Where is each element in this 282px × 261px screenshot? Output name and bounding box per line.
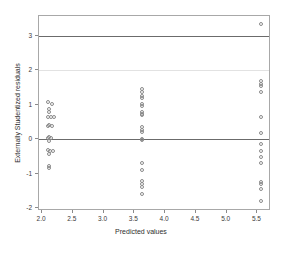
x-tick-label: 2.0 bbox=[37, 215, 46, 222]
x-tick-label: 5.0 bbox=[221, 215, 230, 222]
y-tick-1 bbox=[35, 104, 38, 105]
data-point bbox=[140, 161, 144, 165]
x-tick-4.5 bbox=[195, 210, 196, 213]
y-tick--2 bbox=[35, 207, 38, 208]
y-tick-label: -2 bbox=[12, 204, 32, 211]
data-point bbox=[52, 115, 56, 119]
x-tick-2.0 bbox=[41, 210, 42, 213]
data-point bbox=[259, 22, 263, 26]
data-point bbox=[259, 155, 263, 159]
data-point bbox=[140, 104, 144, 108]
y-tick-0 bbox=[35, 138, 38, 139]
x-tick-label: 4.5 bbox=[190, 215, 199, 222]
data-point bbox=[140, 192, 144, 196]
data-point bbox=[259, 161, 263, 165]
y-tick-label: 2 bbox=[12, 66, 32, 73]
plot-area bbox=[38, 15, 270, 210]
y-tick-label: 3 bbox=[12, 31, 32, 38]
x-tick-5.5 bbox=[256, 210, 257, 213]
reference-line-y-3 bbox=[39, 36, 269, 37]
scatter-plot-figure: Predicted values Externally Studentized … bbox=[0, 0, 282, 261]
x-tick-label: 5.5 bbox=[252, 215, 261, 222]
data-point bbox=[140, 113, 144, 117]
data-point bbox=[50, 124, 54, 128]
data-point bbox=[47, 166, 51, 170]
x-tick-label: 4.0 bbox=[160, 215, 169, 222]
x-axis-label: Predicted values bbox=[0, 228, 282, 235]
x-tick-2.5 bbox=[72, 210, 73, 213]
y-tick-label: 1 bbox=[12, 100, 32, 107]
x-tick-label: 2.5 bbox=[67, 215, 76, 222]
x-tick-5.0 bbox=[226, 210, 227, 213]
x-tick-label: 3.5 bbox=[129, 215, 138, 222]
x-tick-label: 3.0 bbox=[98, 215, 107, 222]
x-tick-3.5 bbox=[133, 210, 134, 213]
reference-line-y-2 bbox=[39, 70, 269, 71]
data-point bbox=[47, 152, 51, 156]
y-tick--1 bbox=[35, 173, 38, 174]
data-point bbox=[259, 90, 263, 94]
y-axis-label: Externally Studentized residuals bbox=[14, 63, 21, 163]
data-point bbox=[140, 138, 144, 142]
data-point bbox=[259, 149, 263, 153]
data-point bbox=[259, 142, 263, 146]
data-point bbox=[140, 168, 144, 172]
data-point bbox=[47, 139, 51, 143]
y-tick-label: 0 bbox=[12, 135, 32, 142]
x-tick-4.0 bbox=[164, 210, 165, 213]
data-point bbox=[259, 187, 263, 191]
data-point bbox=[50, 102, 54, 106]
data-point bbox=[259, 131, 263, 135]
reference-line-y-0 bbox=[39, 139, 269, 140]
data-point bbox=[259, 182, 263, 186]
y-tick-2 bbox=[35, 69, 38, 70]
data-point bbox=[259, 115, 263, 119]
x-tick-3.0 bbox=[103, 210, 104, 213]
data-point bbox=[140, 185, 144, 189]
data-point bbox=[140, 130, 144, 134]
y-tick-label: -1 bbox=[12, 169, 32, 176]
data-point bbox=[51, 149, 55, 153]
y-tick-3 bbox=[35, 35, 38, 36]
data-point bbox=[47, 110, 51, 114]
data-point bbox=[259, 84, 263, 88]
data-point bbox=[259, 199, 263, 203]
data-point bbox=[140, 96, 144, 100]
